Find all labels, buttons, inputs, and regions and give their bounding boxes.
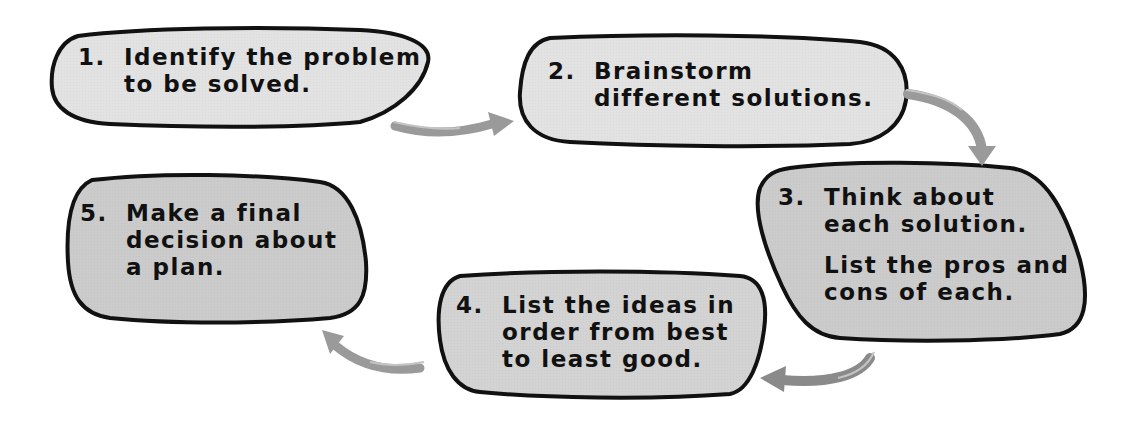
step-2-text: 2.Brainstorm different solutions. — [548, 58, 874, 112]
step-3-number: 3. — [778, 184, 824, 211]
step-5-text: 5.Make a final decision about a plan. — [80, 200, 338, 281]
step-4-line-3: to least good. — [456, 346, 735, 373]
problem-solving-diagram: 1.Identify the problem to be solved. 2.B… — [0, 0, 1145, 423]
step-5-line-3: a plan. — [80, 254, 338, 281]
step-2-number: 2. — [548, 58, 594, 85]
step-5-number: 5. — [80, 200, 126, 227]
step-3-line-2: each solution. — [778, 211, 1069, 238]
arrow-2-to-3-icon — [906, 90, 996, 166]
step-3-text: 3.Think about each solution. List the pr… — [778, 184, 1069, 306]
step-3-line-3: List the pros and — [778, 252, 1069, 279]
step-4-text: 4.List the ideas in order from best to l… — [456, 292, 735, 373]
step-3-line-4: cons of each. — [778, 279, 1069, 306]
step-1-line-2: to be solved. — [78, 71, 421, 98]
step-2-line-2: different solutions. — [548, 85, 874, 112]
step-4-line-1: List the ideas in — [502, 292, 735, 318]
arrow-1-to-2-icon — [394, 112, 514, 136]
step-5-line-2: decision about — [80, 227, 338, 254]
arrow-3-to-4-icon — [760, 352, 874, 392]
step-4-number: 4. — [456, 292, 502, 319]
step-2-line-1: Brainstorm — [594, 58, 753, 84]
step-1-line-1: Identify the problem — [124, 44, 421, 70]
step-4-line-2: order from best — [456, 319, 735, 346]
step-1-text: 1.Identify the problem to be solved. — [78, 44, 421, 98]
step-1-number: 1. — [78, 44, 124, 71]
step-5-line-1: Make a final — [126, 200, 302, 226]
arrow-4-to-5-icon — [322, 330, 424, 369]
step-3-line-1: Think about — [824, 184, 995, 210]
